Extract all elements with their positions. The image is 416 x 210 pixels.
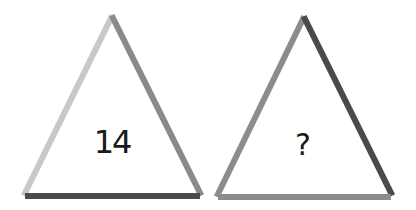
triangle-1-right-edge	[113, 18, 200, 193]
triangle-1-left-edge	[25, 18, 111, 193]
puzzle-canvas	[0, 0, 416, 210]
triangle-2-right-edge	[305, 19, 391, 193]
triangle-2-question-mark: ?	[263, 130, 343, 160]
triangle-1	[25, 18, 200, 196]
triangle-2-left-edge	[218, 19, 303, 194]
triangle-1-number: 14	[72, 126, 152, 158]
triangle-2	[218, 19, 391, 197]
